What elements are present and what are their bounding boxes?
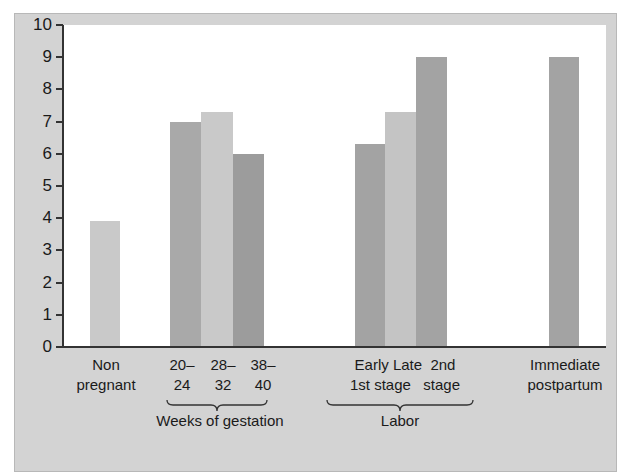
bar-2 — [201, 112, 233, 347]
x-label-line: 32 — [203, 376, 243, 393]
x-label-38-40: 38– 40 — [243, 356, 283, 393]
y-tick-label: 5 — [16, 177, 52, 195]
plot-area — [63, 25, 606, 347]
bar-3 — [233, 154, 264, 347]
x-label-line: Non — [66, 356, 146, 373]
bar-5 — [385, 112, 416, 347]
y-tick-label: 2 — [16, 274, 52, 292]
labor-group-label: Labor — [340, 412, 460, 429]
y-tick-label: 4 — [16, 209, 52, 227]
bar-4 — [355, 144, 385, 347]
bar-1 — [170, 122, 201, 347]
x-label-line: pregnant — [66, 376, 146, 393]
y-tick-label: 0 — [16, 338, 52, 356]
x-label-nonpregnant: Non pregnant — [66, 356, 146, 393]
bar-6 — [416, 57, 447, 347]
gestation-group-label: Weeks of gestation — [130, 412, 310, 429]
x-label-postpartum: Immediate postpartum — [515, 356, 615, 393]
labor-brace — [325, 399, 475, 413]
y-axis — [62, 25, 64, 348]
y-tick-label: 9 — [16, 48, 52, 66]
x-label-line: 20– — [162, 356, 202, 373]
x-label-line: 24 — [162, 376, 202, 393]
x-label-20-24: 20– 24 — [162, 356, 202, 393]
gestation-brace — [165, 399, 270, 413]
x-label-line: Immediate — [515, 356, 615, 373]
y-tick-label: 7 — [16, 113, 52, 131]
x-label-line: 40 — [243, 376, 283, 393]
y-tick-label: 6 — [16, 145, 52, 163]
y-tick-label: 3 — [16, 241, 52, 259]
y-tick-label: 8 — [16, 80, 52, 98]
x-label-28-32: 28– 32 — [203, 356, 243, 393]
y-tick-label: 10 — [16, 16, 52, 34]
y-tick-label: 1 — [16, 306, 52, 324]
x-label-line: 38– — [243, 356, 283, 373]
x-label-line: postpartum — [515, 376, 615, 393]
bar-7 — [549, 57, 579, 347]
x-label-line: 1st stage stage — [335, 376, 475, 393]
x-axis — [62, 346, 606, 348]
x-label-line: Early Late 2nd — [335, 356, 475, 373]
x-label-line: 28– — [203, 356, 243, 373]
bar-0 — [90, 221, 120, 347]
x-label-labor: Early Late 2nd 1st stage stage — [335, 356, 475, 393]
